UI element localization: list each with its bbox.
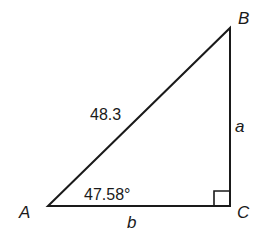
side-a-label: a <box>235 117 244 136</box>
side-b-label: b <box>127 213 136 232</box>
right-angle-marker <box>214 191 230 206</box>
hypotenuse-length-label: 48.3 <box>90 106 121 123</box>
vertex-label-a: A <box>18 203 30 222</box>
triangle-diagram: B A C 48.3 a b 47.58° <box>0 0 270 239</box>
angle-a-label: 47.58° <box>84 186 130 203</box>
triangle-abc <box>48 28 230 206</box>
vertex-label-b: B <box>238 9 249 28</box>
vertex-label-c: C <box>237 203 250 222</box>
